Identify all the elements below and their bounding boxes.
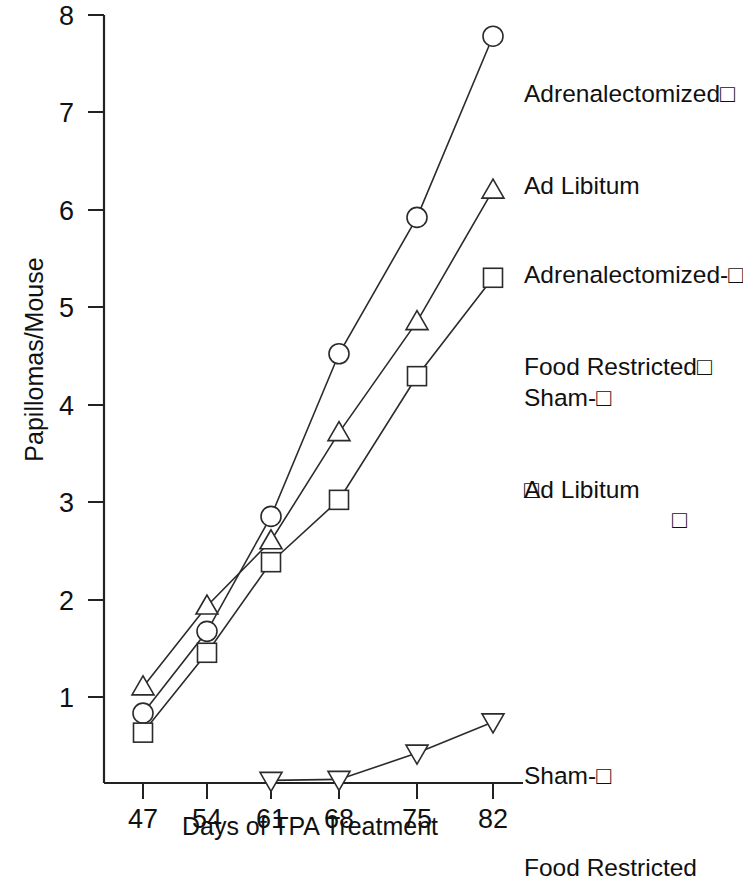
marker-square: [134, 723, 153, 742]
marker-triangle-up: [132, 676, 154, 695]
legend-sham-ad-libitum: Sham-□ Ad Libitum: [524, 322, 640, 567]
series-layer: [132, 26, 504, 791]
marker-square: [408, 367, 427, 386]
marker-triangle-up: [406, 311, 428, 330]
y-tick-label: 8: [59, 1, 74, 31]
legend-line: Food Restricted: [524, 853, 697, 880]
marker-square: [484, 268, 503, 287]
y-tick-label: 6: [59, 196, 74, 226]
y-axis-ticks: [88, 15, 104, 697]
y-tick-label: 3: [59, 488, 74, 518]
y-tick-label: 5: [59, 293, 74, 323]
y-tick-labels: 8 7 6 5 4 3 2 1: [59, 1, 74, 713]
x-axis-ticks: [143, 783, 493, 799]
marker-triangle-up: [260, 530, 282, 549]
marker-triangle-down: [406, 745, 428, 764]
legend-line: Ad Libitum: [524, 475, 640, 506]
legend-line: Sham-□: [524, 761, 697, 792]
legend-line: Ad Libitum: [524, 171, 735, 202]
series-line: [143, 190, 493, 687]
y-tick-label: 2: [59, 586, 74, 616]
marker-circle: [133, 703, 153, 723]
marker-square: [198, 643, 217, 662]
series-1: [133, 26, 503, 723]
series-2: [132, 179, 504, 695]
legend-sham-food-restricted: Sham-□ Food Restricted: [524, 700, 697, 880]
marker-triangle-down: [328, 771, 350, 790]
legend-line: Adrenalectomized-□: [524, 260, 743, 291]
series-line: [271, 722, 493, 781]
y-tick-label: 4: [59, 391, 74, 421]
marker-circle: [483, 26, 503, 46]
x-axis-title: Days of TPA Treatment: [120, 812, 500, 841]
series-line: [143, 278, 493, 733]
marker-triangle-down: [482, 714, 504, 733]
marker-circle: [329, 344, 349, 364]
legend-line: Adrenalectomized□: [524, 79, 735, 110]
legend-line: Sham-□: [524, 383, 640, 414]
axes-group: 8 7 6 5 4 3 2 1 47 54 61 68 75 82: [59, 1, 523, 834]
marker-circle: [261, 506, 281, 526]
series-4: [260, 714, 504, 791]
series-line: [143, 36, 493, 713]
marker-circle: [407, 207, 427, 227]
series-3: [134, 268, 503, 742]
y-tick-label: 7: [59, 98, 74, 128]
marker-triangle-up: [482, 179, 504, 198]
marker-triangle-down: [260, 772, 282, 791]
marker-square: [330, 490, 349, 509]
y-tick-label: 1: [59, 683, 74, 713]
marker-triangle-up: [328, 422, 350, 441]
marker-square: [262, 553, 281, 572]
legend-stray-glyph-right: □: [672, 505, 687, 536]
marker-circle: [197, 621, 217, 641]
y-axis-title: Papillomas/Mouse: [20, 230, 49, 490]
